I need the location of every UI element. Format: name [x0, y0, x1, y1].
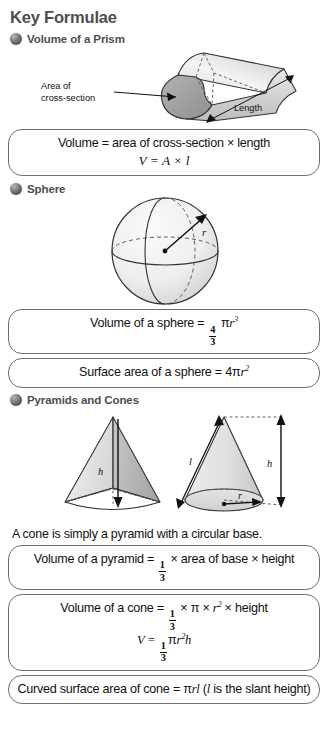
section-header-sphere: Sphere [10, 180, 320, 197]
sphere-svg: r [8, 197, 320, 305]
cone-volume-line-2: V = 13πr2h [15, 632, 313, 664]
sphere-volume-exponent: 3 [234, 315, 238, 324]
pyramid-volume-prefix: Volume of a pyramid = [34, 552, 158, 566]
cone-volume-suffix: × height [221, 601, 267, 615]
cone-pyramid-note: A cone is simply a pyramid with a circul… [12, 527, 320, 541]
cone-height-label: h [267, 458, 272, 469]
prism-area-line1: Area of [41, 81, 71, 91]
sphere-bullet-icon [10, 394, 22, 406]
prism-body [161, 53, 296, 121]
cone-csa-pi: π [183, 682, 191, 696]
prism-diagram: Area of cross-section Length [8, 47, 320, 125]
cone-csa-line: Curved surface area of cone = πrl (l is … [15, 681, 313, 698]
cone-volume-v: V = [137, 633, 158, 647]
sphere-bullet-icon [10, 183, 22, 195]
one-third-fraction: 13 [159, 560, 166, 583]
one-third-fraction: 13 [169, 609, 176, 632]
cone-volume-line-1: Volume of a cone = 13 × π × r2 × height [15, 600, 313, 632]
cone-volume-pi: π [168, 633, 176, 647]
pyramid-volume-line: Volume of a pyramid = 13 × area of base … [15, 551, 313, 583]
prism-volume-formula: Volume = area of cross-section × length … [8, 129, 320, 176]
sphere-sa-prefix: Surface area of a sphere = 4 [79, 365, 232, 379]
fraction-numerator: 1 [169, 609, 176, 620]
pyramid-height-label: h [98, 466, 103, 477]
section-header-pyramids-cones: Pyramids and Cones [10, 392, 320, 409]
cone-csa-note-open: ( [200, 682, 207, 696]
pyramid-volume-suffix: × area of base × height [167, 552, 294, 566]
cone-csa-prefix: Curved surface area of cone = [17, 682, 183, 696]
fraction-numerator: 1 [159, 560, 166, 571]
prism-volume-line-1: Volume = area of cross-section × length [15, 135, 313, 152]
sphere-volume-line: Volume of a sphere = 43 πr3 [15, 315, 313, 347]
cone-volume-formula: Volume of a cone = 13 × π × r2 × height … [8, 594, 320, 671]
fraction-denominator: 3 [169, 620, 176, 632]
cone-volume-h: h [185, 633, 191, 647]
section-header-prism: Volume of a Prism [10, 30, 320, 47]
fraction-denominator: 3 [209, 336, 216, 348]
section-title-sphere: Sphere [27, 183, 65, 195]
fraction-denominator: 3 [160, 652, 167, 664]
solids-svg: h l h [8, 409, 320, 521]
sphere-volume-formula: Volume of a sphere = 43 πr3 [8, 309, 320, 354]
cone-volume-prefix: Volume of a cone = [60, 601, 167, 615]
prism-area-line2: cross-section [41, 93, 95, 103]
one-third-fraction: 13 [160, 641, 167, 664]
cone-slant-label: l [189, 456, 192, 467]
prism-area-label: Area of cross-section [41, 81, 176, 103]
sphere-diagram: r [8, 197, 320, 305]
four-thirds-fraction: 43 [209, 325, 216, 348]
sphere-surface-area-line: Surface area of a sphere = 4πr2 [15, 364, 313, 381]
prism-length-text: Length [234, 103, 262, 113]
pyramid-body: h [65, 417, 160, 510]
fraction-numerator: 4 [209, 325, 216, 336]
section-title-prism: Volume of a Prism [27, 33, 125, 45]
section-title-pyramids-cones: Pyramids and Cones [27, 394, 139, 406]
key-formulae-page: Key Formulae Volume of a Prism [0, 8, 328, 729]
prism-volume-line-2: V = A × l [15, 152, 313, 170]
sphere-sa-exponent: 2 [245, 364, 249, 373]
sphere-bullet-icon [10, 33, 22, 45]
pyramid-and-cone-diagram: h l h [8, 409, 320, 521]
prism-svg: Area of cross-section Length [8, 47, 320, 125]
sphere-body: r [112, 198, 218, 304]
page-title: Key Formulae [10, 8, 320, 26]
fraction-numerator: 1 [160, 641, 167, 652]
sphere-volume-prefix: Volume of a sphere = [90, 316, 208, 330]
cone-curved-surface-area-formula: Curved surface area of cone = πrl (l is … [8, 675, 320, 705]
fraction-denominator: 3 [159, 571, 166, 583]
sphere-surface-area-formula: Surface area of a sphere = 4πr2 [8, 358, 320, 388]
cone-volume-mid: × π × [177, 601, 213, 615]
cone-csa-note-text: is the slant height) [210, 682, 310, 696]
pyramid-volume-formula: Volume of a pyramid = 13 × area of base … [8, 545, 320, 590]
cone-body: l h r [176, 414, 286, 511]
